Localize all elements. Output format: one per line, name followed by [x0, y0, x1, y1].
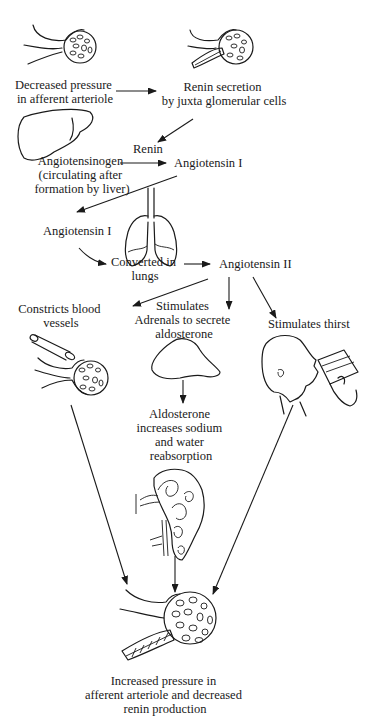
stimulates-thirst-label: Stimulates thirst	[268, 317, 350, 331]
glomerulus-icon	[24, 25, 96, 64]
glomerulus-icon	[35, 358, 108, 395]
converted-in-lungs-label: Converted in lungs	[111, 255, 179, 283]
angiotensin-i-top-label: Angiotensin I	[174, 156, 242, 170]
arrow-constricts-to-outcome	[71, 405, 127, 584]
glomerulus-juxtaglomerular-icon	[188, 30, 253, 68]
constricts-label: Constricts blood vessels	[18, 302, 103, 330]
nephron-icon	[136, 469, 204, 560]
outcome-label: Increased pressure in afferent arteriole…	[85, 674, 245, 716]
arrow-ang-i-to-lungs	[79, 248, 106, 264]
stimulates-adrenals-label: Stimulates Adrenals to secrete aldostero…	[135, 299, 234, 341]
aldosterone-effect-label: Aldosterone increases sodium and water r…	[137, 407, 226, 463]
raas-diagram: Decreased pressure in afferent arteriole…	[0, 0, 378, 726]
glomerulus-juxtaglomerular-icon	[120, 590, 216, 660]
arrow-renin-secretion-down	[158, 119, 193, 142]
arrow-ang-ii-to-thirst	[253, 277, 276, 318]
decreased-pressure-label: Decreased pressure in afferent arteriole	[15, 78, 115, 106]
renin-secretion-label: Renin secretion by juxta glomerular cell…	[162, 80, 287, 108]
angiotensin-i-left-label: Angiotensin I	[43, 224, 111, 238]
angiotensin-ii-label: Angiotensin II	[219, 257, 292, 271]
blood-vessel-icon	[29, 333, 76, 361]
adrenal-gland-icon	[152, 339, 220, 379]
person-drinking-icon	[262, 336, 358, 417]
angiotensinogen-label: Angiotensinogen (circulating after forma…	[34, 154, 129, 196]
liver-icon	[18, 109, 93, 160]
renin-label: Renin	[133, 142, 164, 156]
